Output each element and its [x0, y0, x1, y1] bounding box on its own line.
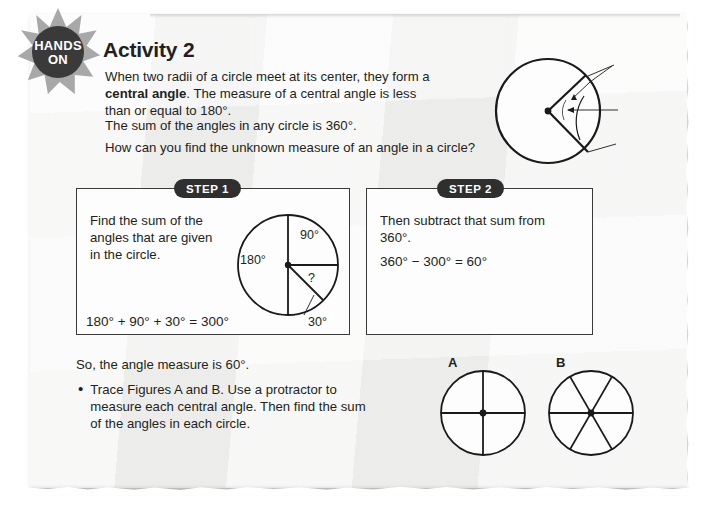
center-point	[285, 262, 291, 268]
page-title: Activity 2	[103, 38, 194, 62]
center-point	[545, 108, 552, 115]
radius-bottom-leader	[588, 144, 616, 152]
badge-label-hands: HANDS	[34, 39, 82, 52]
hands-on-badge: HANDS ON	[16, 8, 100, 94]
step-1-circle-svg	[232, 203, 350, 331]
step-1-circle-diagram: 180° 90° ? 30°	[232, 203, 350, 331]
step-1-pill: STEP 1	[174, 179, 241, 198]
center-point	[480, 410, 487, 417]
step-1-label-30: 30°	[308, 315, 327, 329]
intro-paragraph-1: When two radii of a circle meet at its c…	[105, 68, 445, 119]
intro-paragraph-3: How can you find the unknown measure of …	[105, 139, 525, 156]
step-1-instruction: Find the sum of the angles that are give…	[90, 212, 215, 263]
center-point	[588, 410, 595, 417]
step-2-instruction: Then subtract that sum from 360°.	[380, 212, 560, 246]
step-1-label-180: 180°	[240, 253, 266, 267]
figure-a-svg	[440, 368, 526, 458]
definition-circle-svg	[492, 52, 692, 170]
intro-text-part1: When two radii of a circle meet at its c…	[105, 69, 430, 84]
step-1-equation: 180° + 90° + 30° = 300°	[86, 313, 229, 330]
badge-label-on: ON	[48, 53, 68, 66]
step-1-label-90: 90°	[300, 228, 319, 242]
task-bullet-text: Trace Figures A and B. Use a protractor …	[90, 381, 378, 432]
badge-disc: HANDS ON	[32, 26, 84, 78]
paper-torn-bottom-edge	[28, 481, 692, 495]
step-2-equation: 360° − 300° = 60°	[380, 253, 487, 270]
worksheet-page: HANDS ON Activity 2 When two radii of a …	[0, 0, 710, 520]
step-1-label-unknown: ?	[308, 271, 315, 285]
figure-a-circle	[440, 368, 526, 458]
central-angle-definition-diagram: radius central angle radius	[492, 52, 692, 170]
term-central-angle: central angle	[105, 86, 186, 101]
figure-b-svg	[548, 368, 634, 458]
bullet-icon: •	[78, 381, 83, 432]
figure-b-circle	[548, 368, 634, 458]
paper-top-shadow	[150, 14, 680, 18]
step-2-pill: STEP 2	[437, 179, 504, 198]
intro-paragraph-2: The sum of the angles in any circle is 3…	[105, 117, 445, 134]
task-bullet: • Trace Figures A and B. Use a protracto…	[78, 381, 378, 432]
conclusion-text: So, the angle measure is 60°.	[76, 357, 249, 372]
